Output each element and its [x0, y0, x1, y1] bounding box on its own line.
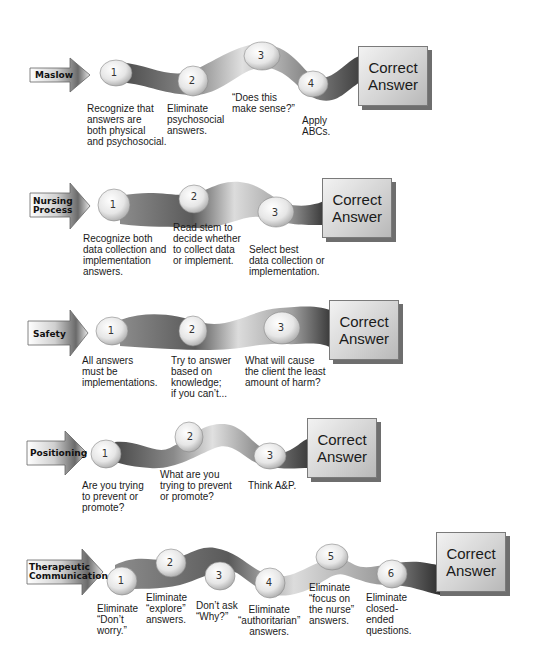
correct-answer-box: Correct Answer: [358, 46, 428, 106]
step-number: 2: [184, 191, 204, 202]
pebble-1: [107, 567, 137, 595]
pebble-2: [156, 549, 186, 577]
step-number: 1: [111, 575, 131, 586]
step-number: 6: [381, 568, 401, 579]
ribbon-shape: [115, 548, 440, 596]
ribbon-shape: [120, 307, 335, 350]
step-description: Think A&P.: [248, 480, 296, 491]
correct-answer-box: Correct Answer: [322, 178, 392, 238]
start-arrow-icon: [30, 183, 90, 229]
row-label: Nursing Process: [33, 197, 73, 215]
step-number: 3: [260, 450, 280, 461]
correct-answer-line-2: Answer: [332, 208, 382, 225]
step-description: Are you trying to prevent or promote?: [82, 480, 144, 513]
step-description: “Does this make sense?”: [232, 92, 295, 114]
correct-answer-line-1: Correct: [317, 431, 366, 448]
correct-answer-box: Correct Answer: [329, 300, 399, 360]
ribbon-path: [0, 0, 545, 150]
pebble-2: [175, 422, 203, 452]
row-label: Therapeutic Communication: [29, 563, 108, 581]
correct-answer-line-1: Correct: [339, 313, 388, 330]
correct-answer-box: Correct Answer: [307, 418, 377, 478]
step-number: 4: [259, 577, 279, 588]
pebble-1: [98, 189, 130, 221]
correct-answer-line-1: Correct: [446, 545, 495, 562]
step-description: Try to answer based on knowledge; if you…: [171, 355, 231, 399]
pebble-6: [377, 560, 407, 588]
correct-answer-line-2: Answer: [317, 448, 367, 465]
correct-answer-line-2: Answer: [446, 562, 496, 579]
step-description: Eliminate “Don’t worry.”: [97, 603, 138, 636]
step-description: Select best data collection or implement…: [249, 244, 325, 277]
step-description: Apply ABCs.: [302, 115, 330, 137]
row-label: Positioning: [30, 449, 87, 458]
step-number: 1: [101, 325, 121, 336]
step-number: 1: [104, 67, 124, 78]
correct-answer-line-2: Answer: [368, 76, 418, 93]
correct-answer-line-1: Correct: [368, 59, 417, 76]
step-description: Eliminate psychosocial answers.: [167, 103, 224, 136]
pebble-5: [316, 544, 348, 570]
ribbon-shape: [115, 424, 310, 469]
correct-answer-box: Correct Answer: [436, 532, 506, 592]
row-label: Safety: [33, 330, 66, 339]
start-arrow-icon: [27, 549, 103, 595]
step-description: What are you trying to prevent or promot…: [160, 469, 232, 502]
step-number: 1: [95, 448, 115, 459]
pebble-4: [255, 568, 285, 598]
step-number: 3: [271, 322, 291, 333]
pebble-2: [179, 316, 207, 346]
step-description: Read stem to decide whether to collect d…: [173, 222, 241, 266]
pebble-3: [205, 562, 235, 590]
pebble-1: [91, 440, 121, 468]
step-description: Don’t ask “Why?”: [196, 600, 238, 622]
pebble-3: [254, 443, 286, 469]
step-number: 3: [209, 570, 229, 581]
step-number: 1: [103, 199, 123, 210]
step-number: 3: [265, 207, 285, 218]
step-number: 5: [321, 551, 341, 562]
step-description: What will cause the client the least amo…: [245, 355, 326, 388]
pebble-3: [264, 312, 300, 344]
step-description: Eliminate closed- ended questions.: [366, 592, 412, 636]
step-description: All answers must be implementations.: [82, 355, 158, 388]
pebble-2: [179, 185, 209, 213]
step-number: 3: [251, 50, 271, 61]
flow-row-maslow: Maslow 1 2 3 4 Recognize that answers ar…: [0, 0, 545, 150]
step-description: Eliminate “explore” answers.: [146, 592, 187, 625]
ribbon-shape: [120, 182, 328, 228]
step-number: 2: [182, 324, 202, 335]
start-arrow-icon: [28, 310, 88, 356]
step-number: 2: [160, 557, 180, 568]
step-description: Recognize both data collection and imple…: [83, 233, 166, 277]
pebble-1: [96, 317, 128, 345]
pebble-3: [258, 197, 294, 227]
start-arrow-icon: [27, 431, 87, 475]
step-number: 4: [301, 78, 321, 89]
correct-answer-line-1: Correct: [332, 191, 381, 208]
step-number: 2: [182, 75, 202, 86]
step-number: 2: [180, 431, 200, 442]
step-description: Recognize that answers are both physical…: [87, 103, 167, 147]
step-description: Eliminate “authoritarian” answers.: [238, 604, 300, 637]
row-label: Maslow: [35, 71, 73, 80]
correct-answer-line-2: Answer: [339, 330, 389, 347]
step-description: Eliminate “focus on the nurse” answers.: [309, 582, 354, 626]
